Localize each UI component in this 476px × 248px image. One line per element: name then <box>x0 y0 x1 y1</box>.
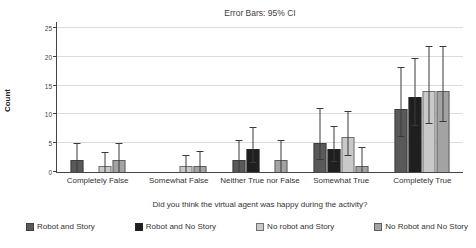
category-label: Somewhat True <box>301 176 382 185</box>
error-bar-line <box>348 112 349 157</box>
bar-slot <box>98 28 111 172</box>
y-tick-label-25: 25 <box>32 25 52 32</box>
error-bar-cap-top <box>317 108 324 109</box>
legend-label: Robot and No Story <box>146 222 216 231</box>
x-axis-line <box>56 172 463 173</box>
error-bar-cap-bottom <box>317 159 324 160</box>
error-bar-cap-top <box>331 126 338 127</box>
legend-label: No Robot and No Story <box>385 222 468 231</box>
legend-swatch-icon <box>135 223 143 231</box>
error-bar-cap-bottom <box>345 155 352 156</box>
bar-slot <box>314 28 327 172</box>
error-bar-cap-bottom <box>331 161 338 162</box>
error-bar-line <box>429 47 430 124</box>
bar-group <box>219 28 300 172</box>
error-bar-cap-bottom <box>412 125 419 126</box>
error-bar-cap-top <box>359 147 366 148</box>
error-bar-line <box>76 144 77 172</box>
legend-label: Robot and Story <box>37 222 95 231</box>
error-bar-cap-top <box>115 143 122 144</box>
error-bar-line <box>118 144 119 172</box>
y-tick-mark <box>53 113 56 114</box>
category-label: Completely False <box>57 176 138 185</box>
legend-item: Robot and No Story <box>135 222 216 231</box>
bar-slot <box>151 28 164 172</box>
error-bar-cap-top <box>101 152 108 153</box>
error-bar-cap-top <box>398 67 405 68</box>
error-bar-line <box>185 156 186 172</box>
error-bar-line <box>415 59 416 126</box>
error-bar-cap-bottom <box>440 121 447 122</box>
error-bar-line <box>280 141 281 172</box>
category-label: Completely True <box>382 176 463 185</box>
bar-slot <box>179 28 192 172</box>
legend: Robot and StoryRobot and No StoryNo robo… <box>26 222 468 231</box>
error-bar-cap-bottom <box>398 136 405 137</box>
chart-title: Error Bars: 95% CI <box>57 8 463 18</box>
bar-slot <box>232 28 245 172</box>
error-bar-cap-bottom <box>249 162 256 163</box>
bar-slot <box>260 28 273 172</box>
bar-slot <box>274 28 287 172</box>
bar-slot <box>70 28 83 172</box>
error-bar-cap-top <box>412 58 419 59</box>
legend-swatch-icon <box>256 223 264 231</box>
error-bar-cap-top <box>426 46 433 47</box>
bar-group <box>382 28 463 172</box>
bar-group <box>57 28 138 172</box>
y-tick-label-0: 0 <box>32 169 52 176</box>
legend-item: Robot and Story <box>26 222 95 231</box>
x-axis-title: Did you think the virtual agent was happ… <box>57 200 463 209</box>
bar-slot <box>328 28 341 172</box>
y-tick-label-10: 10 <box>32 111 52 118</box>
bar-slot <box>342 28 355 172</box>
error-bar-line <box>104 153 105 172</box>
bar-slot <box>423 28 436 172</box>
bar-group <box>301 28 382 172</box>
error-bar-cap-top <box>345 111 352 112</box>
category-label: Somewhat False <box>138 176 219 185</box>
error-bar-cap-top <box>277 140 284 141</box>
error-bar-line <box>443 47 444 122</box>
bar-slot <box>246 28 259 172</box>
error-bar-line <box>252 128 253 163</box>
bar-slot <box>112 28 125 172</box>
bar-group <box>138 28 219 172</box>
bar-slot <box>437 28 450 172</box>
chart-canvas: Error Bars: 95% CI Count 0510152025 Did … <box>0 0 476 248</box>
legend-swatch-icon <box>26 223 34 231</box>
error-bar-cap-top <box>73 143 80 144</box>
error-bar-line <box>320 109 321 161</box>
error-bar-cap-top <box>196 151 203 152</box>
category-label: Neither True nor False <box>219 176 300 185</box>
bar-slot <box>395 28 408 172</box>
bar-slot <box>84 28 97 172</box>
error-bar-line <box>401 68 402 137</box>
bar-slot <box>165 28 178 172</box>
error-bar-line <box>238 141 239 172</box>
error-bar-line <box>199 152 200 172</box>
bar-slot <box>356 28 369 172</box>
legend-item: No robot and Story <box>256 222 334 231</box>
error-bar-cap-top <box>440 46 447 47</box>
y-tick-mark <box>53 171 56 172</box>
y-tick-label-20: 20 <box>32 53 52 60</box>
bar-slot <box>193 28 206 172</box>
error-bar-cap-top <box>235 140 242 141</box>
legend-swatch-icon <box>374 223 382 231</box>
error-bar-cap-top <box>249 127 256 128</box>
y-tick-mark <box>53 85 56 86</box>
error-bar-line <box>334 127 335 162</box>
legend-item: No Robot and No Story <box>374 222 468 231</box>
y-tick-mark <box>53 142 56 143</box>
y-tick-mark <box>53 56 56 57</box>
y-tick-label-5: 5 <box>32 140 52 147</box>
error-bar-cap-top <box>182 155 189 156</box>
error-bar-cap-bottom <box>426 123 433 124</box>
error-bar-line <box>362 148 363 172</box>
plot-area: 0510152025 <box>57 28 463 172</box>
legend-label: No robot and Story <box>267 222 334 231</box>
y-axis-title: Count <box>3 71 12 131</box>
y-tick-mark <box>53 27 56 28</box>
y-tick-label-15: 15 <box>32 82 52 89</box>
